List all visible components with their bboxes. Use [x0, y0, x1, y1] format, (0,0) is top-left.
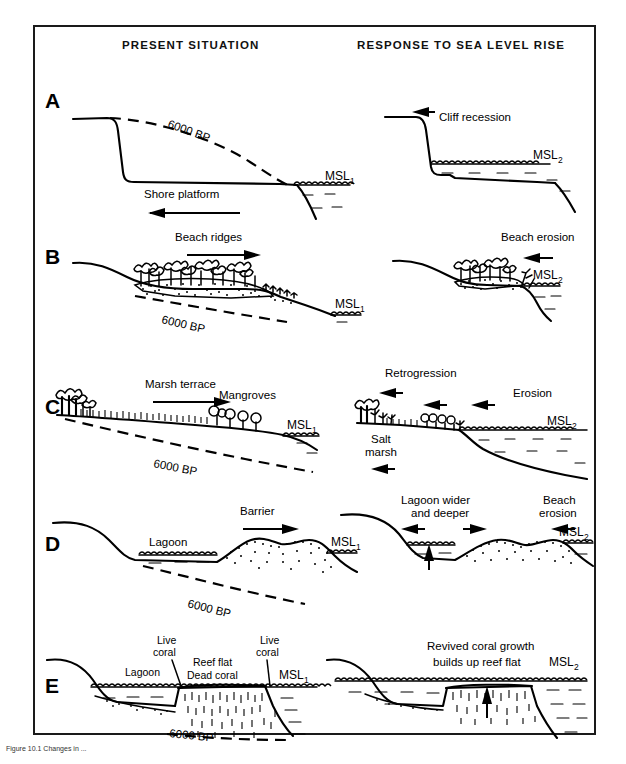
panel-c-marsh-terrace-label: Marsh terrace	[145, 378, 216, 390]
panel-b-left-msl-label: MSL	[335, 297, 360, 311]
panel-e-dead-coral-label: Dead coral	[187, 669, 238, 681]
panel-a-shore-platform-arrow	[148, 208, 240, 218]
figure-frame: PRESENT SITUATION RESPONSE TO SEA LEVEL …	[33, 25, 596, 735]
panel-c-salt-marsh-label-2: marsh	[365, 446, 397, 458]
panel-e-right-scene: Revived coral growth builds up reef flat…	[327, 640, 587, 738]
panel-b-beach-erosion-label: Beach erosion	[501, 231, 575, 243]
panel-c-retrogression-arrow	[379, 388, 403, 398]
panel-d-lagoon-wider-label-2: and deeper	[411, 507, 469, 519]
panel-e-live-coral-right-leader	[267, 660, 270, 686]
panel-e-reef-growth-arrow	[482, 686, 492, 718]
panel-a-right-msl-label: MSL	[533, 148, 558, 162]
panel-d-lagoon-widening-arrow-left	[401, 524, 425, 534]
panel-c-left-bp-label: 6000 BP	[153, 457, 199, 477]
panel-a-right-scene: MSL 2 Cliff recession	[385, 107, 575, 212]
panel-d-beach-erosion-label-2: erosion	[539, 507, 577, 519]
panel-a-cliff-recession-label: Cliff recession	[439, 111, 511, 123]
panel-d-beach-erosion-label-1: Beach	[543, 494, 576, 506]
panel-c-erosion-arrow-2	[471, 400, 495, 410]
panel-a-diagram: 6000 BP MSL 1 Shore platform	[35, 67, 598, 227]
panel-c-salt-marsh-label-1: Salt	[371, 433, 392, 445]
panel-c-retrogression-label: Retrogression	[385, 367, 457, 379]
panel-e-right-msl-label: MSL	[549, 655, 574, 669]
panel-b-left-msl-subscript: 1	[360, 304, 365, 314]
panel-a-left-bp-label: 6000 BP	[166, 118, 212, 144]
panel-a-shore-platform-label: Shore platform	[144, 188, 219, 200]
panel-e-live-coral-left-label-2: coral	[153, 646, 176, 658]
panel-b-right-msl-subscript: 2	[558, 275, 563, 285]
panel-a-left-msl-label: MSL	[325, 169, 350, 183]
panel-b-right-msl-label: MSL	[533, 268, 558, 282]
panel-d-lagoon-deepening-arrow	[424, 544, 434, 570]
panel-c-right-msl-subscript: 2	[572, 421, 577, 431]
column-header-response-to-sea-level-rise: RESPONSE TO SEA LEVEL RISE	[357, 39, 565, 51]
figure-caption: Figure 10.1 Changes in ...	[6, 745, 87, 752]
panel-e-reef-flat-label: Reef flat	[193, 656, 232, 668]
panel-d-left-msl-label: MSL	[331, 535, 356, 549]
panel-e-revived-coral-label-2: builds up reef flat	[433, 656, 521, 668]
panel-e-live-coral-left-label-1: Live	[157, 634, 176, 646]
panel-d-barrier-arrow	[243, 524, 299, 534]
panel-e-live-coral-left-leader	[172, 660, 181, 686]
panel-e-left-msl-label: MSL	[279, 668, 304, 682]
panel-e-left-scene: 6000 BP Live coral Reef flat Dead coral …	[47, 634, 331, 744]
panel-c-erosion-arrow-1	[423, 400, 447, 410]
panel-c-erosion-label: Erosion	[513, 387, 552, 399]
panel-c-left-scene: Mangroves 6000 BP Marsh terrace MSL 1	[56, 378, 319, 477]
panel-b-right-scene: MSL 2 Beach erosion	[393, 231, 575, 321]
panel-d-lagoon-widening-arrow-right	[463, 524, 487, 534]
panel-c-mangroves-label: Mangroves	[219, 389, 276, 401]
panel-c-diagram: Mangroves 6000 BP Marsh terrace MSL 1	[35, 355, 598, 495]
panel-a-cliff-recession-arrow	[412, 107, 435, 117]
panel-c-left-msl-label: MSL	[287, 418, 312, 432]
panel-e-revived-coral-texture	[453, 690, 535, 725]
panel-e-left-msl-subscript: 1	[304, 675, 309, 685]
panel-e-diagram: 6000 BP Live coral Reef flat Dead coral …	[35, 622, 598, 752]
panel-e-live-coral-right-label-1: Live	[260, 634, 279, 646]
panel-b-sand-stipple	[142, 283, 292, 304]
panel-e-revived-coral-label-1: Revived coral growth	[427, 640, 534, 652]
panel-d-left-bp-label: 6000 BP	[187, 597, 233, 619]
column-header-present-situation: PRESENT SITUATION	[122, 39, 259, 51]
panel-d-right-scene: MSL 2 Lagoon wider and deeper Beach eros…	[341, 494, 593, 570]
panel-c-left-msl-subscript: 1	[312, 425, 317, 435]
panel-b-beach-erosion-arrow	[523, 253, 553, 263]
panel-d-lagoon-wider-label-1: Lagoon wider	[401, 494, 470, 506]
panel-b-left-bp-label: 6000 BP	[161, 313, 207, 335]
panel-e-lagoon-label: Lagoon	[125, 666, 160, 678]
panel-e-right-msl-subscript: 2	[574, 662, 579, 672]
panel-c-right-msl-label: MSL	[547, 414, 572, 428]
panel-a-left-msl-subscript: 1	[350, 176, 355, 186]
panel-d-left-scene: Lagoon MSL 1 Barrier 6000 BP	[53, 505, 361, 620]
panel-e-live-coral-right-label-2: coral	[256, 646, 279, 658]
panel-b-beach-ridges-arrow	[187, 250, 261, 260]
panel-d-right-msl-subscript: 2	[584, 532, 589, 542]
panel-b-left-scene: 6000 BP Beach ridges MSL 1	[73, 231, 365, 335]
panel-d-left-msl-subscript: 1	[356, 542, 361, 552]
panel-a-right-msl-subscript: 2	[558, 155, 563, 165]
panel-c-salt-marsh-arrow	[371, 464, 395, 474]
panel-c-right-scene: Retrogression Erosion Salt marsh	[355, 367, 587, 479]
panel-a-left-scene: 6000 BP MSL 1 Shore platform	[73, 118, 355, 219]
panel-d-lagoon-label: Lagoon	[149, 536, 187, 548]
panel-b-diagram: 6000 BP Beach ridges MSL 1	[35, 219, 598, 349]
panel-d-diagram: Lagoon MSL 1 Barrier 6000 BP	[35, 482, 598, 622]
panel-b-beach-ridges-label: Beach ridges	[175, 231, 242, 243]
panel-d-barrier-label: Barrier	[240, 505, 275, 517]
panel-c-left-trees	[56, 389, 96, 416]
panel-e-left-bp-label: 6000 BP	[169, 727, 214, 744]
